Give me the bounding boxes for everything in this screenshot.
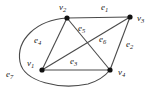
edge-e1-line xyxy=(67,17,130,18)
edge-label-e1: e1 xyxy=(101,3,108,12)
vertex-label-v1: v1 xyxy=(27,59,34,68)
vertex-label-v2: v2 xyxy=(59,3,66,12)
edge-label-e2: e2 xyxy=(126,40,133,49)
edge-label-e4: e4 xyxy=(34,36,41,45)
edge-e7-curve xyxy=(19,18,110,86)
graph-figure: v1 v2 v3 v4 e1 e2 e3 e4 e5 e6 e7 xyxy=(0,0,162,92)
vertex-v4-dot xyxy=(107,67,112,72)
edge-lines xyxy=(19,17,130,86)
vertex-v3-dot xyxy=(127,14,132,19)
edge-label-e3: e3 xyxy=(70,57,77,66)
edge-label-e5: e5 xyxy=(78,24,85,33)
vertex-v2-dot xyxy=(64,15,69,20)
vertex-v1-dot xyxy=(39,67,44,72)
edge-label-e6: e6 xyxy=(99,35,106,44)
vertex-label-v4: v4 xyxy=(118,68,125,77)
vertex-label-v3: v3 xyxy=(137,14,144,23)
edge-label-e7: e7 xyxy=(6,70,13,79)
